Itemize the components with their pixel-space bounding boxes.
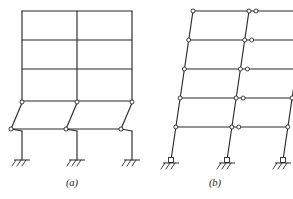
pin-joint-b-r4c2b xyxy=(241,96,245,100)
pin-joint-b-r1c2b xyxy=(254,9,258,13)
panel-a-caption: (a) xyxy=(66,177,79,189)
pin-joint-b-r1c1 xyxy=(191,9,195,13)
structural-frame-figure: (a) xyxy=(0,0,293,199)
support-pin-box xyxy=(169,158,174,163)
pin-joint-b-r4c2 xyxy=(234,96,238,100)
pin-joint-b-r3c2 xyxy=(238,67,242,71)
pin-joint-b-r5c3 xyxy=(286,125,290,129)
figure-container: (a) xyxy=(0,0,293,199)
pin-joint-a-4 xyxy=(9,127,13,131)
pin-joint-a-5 xyxy=(64,127,68,131)
pin-joint-b-r5c1 xyxy=(174,125,178,129)
pin-joint-b-r3c1 xyxy=(182,67,186,71)
pin-joint-a-1 xyxy=(20,100,24,104)
panel-b-caption: (b) xyxy=(209,177,222,189)
pin-joint-b-r3c2b xyxy=(245,67,249,71)
pin-joint-b-r5c2 xyxy=(230,125,234,129)
pin-joint-b-r1c2 xyxy=(247,9,251,13)
pin-joint-b-r2c2 xyxy=(243,38,247,42)
pin-joint-b-r2c1 xyxy=(187,38,191,42)
figure-background xyxy=(0,0,293,199)
pin-joint-b-r2c2b xyxy=(250,38,254,42)
pin-joint-a-2 xyxy=(75,100,79,104)
pin-joint-b-r4c1 xyxy=(178,96,182,100)
pin-joint-a-3 xyxy=(130,100,134,104)
support-pin-box xyxy=(281,158,286,163)
pin-joint-b-r5c2b xyxy=(237,125,241,129)
pin-joint-a-6 xyxy=(119,127,123,131)
pin-joint-b-r4c3 xyxy=(290,96,293,100)
support-pin-box xyxy=(225,158,230,163)
